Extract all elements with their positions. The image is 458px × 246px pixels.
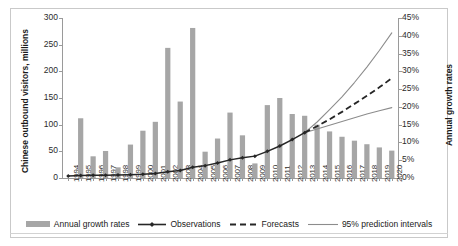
plot-area: [62, 18, 398, 178]
x-axis-tick-mark: [367, 178, 368, 181]
x-axis-tick-mark: [379, 178, 380, 181]
y-axis-left-tick-label: 100: [24, 119, 58, 129]
prediction-interval-upper-line: [305, 33, 392, 133]
y-axis-right-tick-label: 10%: [402, 136, 436, 146]
y-axis-right-tick-mark: [399, 107, 402, 108]
y-axis-left-tick-label: 0: [24, 172, 58, 182]
legend-item-observations[interactable]: Observations: [138, 220, 220, 229]
x-axis-tick-mark: [242, 178, 243, 181]
y-axis-right-tick-label: 0%: [402, 172, 436, 182]
legend-item-label: Annual growth rates: [54, 220, 130, 229]
legend-item-forecasts[interactable]: Forecasts: [230, 220, 299, 229]
y-axis-left-tick-label: 250: [24, 39, 58, 49]
legend-item-label: Observations: [170, 220, 220, 229]
x-axis-tick-mark: [205, 178, 206, 181]
y-axis-right-tick-label: 45%: [402, 12, 436, 22]
bar-series-annual-growth-rates: [78, 28, 394, 178]
x-axis-tick-mark: [330, 178, 331, 181]
x-axis-tick-mark: [317, 178, 318, 181]
x-axis-tick-mark: [180, 178, 181, 181]
y-axis-right-tick-mark: [399, 125, 402, 126]
y-axis-right-tick-label: 30%: [402, 65, 436, 75]
y-axis-left-tick-label: 50: [24, 145, 58, 155]
x-axis-tick-mark: [305, 178, 306, 181]
x-axis-tick-mark: [143, 178, 144, 181]
y-axis-left-tick-mark: [59, 178, 62, 179]
x-axis-tick-mark: [280, 178, 281, 181]
y-axis-right-tick-mark: [399, 142, 402, 143]
forecast-line: [305, 78, 392, 132]
x-axis-tick-mark: [342, 178, 343, 181]
x-axis-tick-mark: [168, 178, 169, 181]
y-axis-right-tick-mark: [399, 71, 402, 72]
legend-divider: [10, 233, 448, 234]
y-axis-right-tick-label: 15%: [402, 119, 436, 129]
legend-item-label: 95% prediction intervals: [342, 220, 432, 229]
y-axis-right-tick-mark: [399, 36, 402, 37]
prediction-interval-lower-line: [305, 108, 392, 133]
y-axis-right-tick-mark: [399, 89, 402, 90]
y-axis-right-tick-label: 40%: [402, 30, 436, 40]
x-axis-tick-mark: [130, 178, 131, 181]
legend-item-95-prediction-intervals[interactable]: 95% prediction intervals: [308, 220, 432, 229]
x-axis-tick-mark: [106, 178, 107, 181]
legend-swatch-line-thin-icon: [308, 220, 338, 229]
x-axis-tick-mark: [354, 178, 355, 181]
x-axis-tick-mark: [255, 178, 256, 181]
x-axis-tick-mark: [68, 178, 69, 181]
y-axis-right-tick-mark: [399, 54, 402, 55]
y-axis-right-tick-mark: [399, 160, 402, 161]
x-axis-tick-mark: [193, 178, 194, 181]
x-axis-tick-mark: [218, 178, 219, 181]
x-axis-tick-mark: [93, 178, 94, 181]
legend-swatch-line-dashed-icon: [230, 220, 258, 229]
y-axis-right-tick-mark: [399, 18, 402, 19]
x-axis-tick-mark: [118, 178, 119, 181]
chart-legend: Annual growth ratesObservationsForecasts…: [10, 215, 448, 233]
legend-swatch-bar-icon: [26, 221, 50, 227]
x-axis-tick-mark: [81, 178, 82, 181]
y-axis-left-tick-label: 300: [24, 12, 58, 22]
y-axis-right-tick-label: 25%: [402, 83, 436, 93]
plot-svg: [62, 18, 398, 178]
y-axis-right-tick-label: 20%: [402, 101, 436, 111]
x-axis-tick-mark: [392, 178, 393, 181]
observations-markers: [66, 131, 306, 178]
x-axis-tick-mark: [267, 178, 268, 181]
chart-figure: Chinese outbound visitors, millions Annu…: [0, 0, 458, 246]
legend-swatch-line-diamond-icon: [138, 220, 166, 229]
y-axis-right-title: Annual growth rates: [444, 35, 454, 175]
y-axis-right-tick-label: 35%: [402, 48, 436, 58]
x-axis-tick-mark: [155, 178, 156, 181]
y-axis-right-tick-label: 5%: [402, 154, 436, 164]
y-axis-left-tick-label: 150: [24, 92, 58, 102]
legend-item-label: Forecasts: [262, 220, 299, 229]
legend-item-annual-growth-rates[interactable]: Annual growth rates: [26, 220, 130, 229]
x-axis-tick-mark: [292, 178, 293, 181]
y-axis-right-line: [398, 18, 399, 179]
x-axis-tick-mark: [230, 178, 231, 181]
y-axis-left-tick-label: 200: [24, 65, 58, 75]
